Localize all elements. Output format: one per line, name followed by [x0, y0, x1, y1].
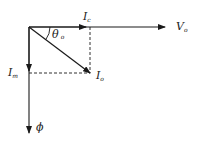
vo-label: Vo — [176, 20, 188, 33]
angle-arc — [46, 27, 50, 40]
phasor-diagram: Ic Vo θo Im Io ϕ — [0, 0, 198, 145]
im-label: Im — [7, 66, 18, 79]
io-phasor-line — [29, 27, 90, 73]
phi-label: ϕ — [36, 121, 44, 134]
ic-label: Ic — [82, 10, 91, 23]
io-label: Io — [95, 69, 104, 82]
theta-label: θo — [52, 28, 65, 41]
